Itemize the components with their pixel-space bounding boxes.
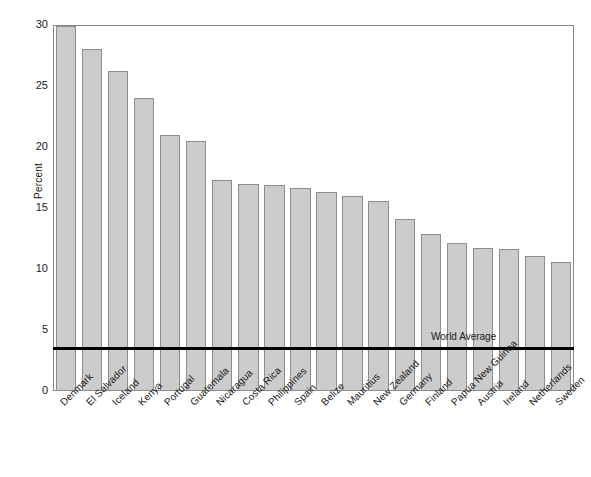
bar [238,184,258,391]
y-tick-label: 10 [14,263,48,274]
bar [212,180,232,391]
bar [108,71,128,391]
y-tick-label: 20 [14,141,48,152]
y-tick-label: 0 [14,385,48,396]
bar [290,188,310,391]
world-average-line [53,347,574,350]
bar [525,256,545,391]
y-tick-label: 5 [14,324,48,335]
bar [186,141,206,391]
bar [264,185,284,391]
y-tick-label: 30 [14,19,48,30]
chart-figure: Percent 302520151050 World Average Denma… [0,0,591,477]
y-tick-label: 15 [14,202,48,213]
bar [447,243,467,391]
y-tick-label: 25 [14,80,48,91]
bar [368,201,388,391]
bar [499,249,519,391]
bar [342,196,362,391]
bar [160,135,180,391]
bar [56,26,76,391]
bar [82,49,102,391]
bar [316,192,336,391]
bar [421,234,441,391]
world-average-label: World Average [431,331,496,342]
